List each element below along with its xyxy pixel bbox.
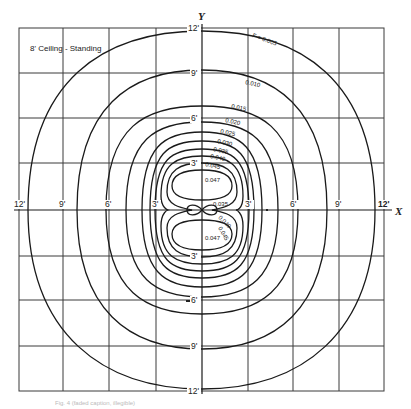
y-tick: 6' — [191, 113, 198, 123]
contour-label: F = 0.005 — [252, 32, 279, 47]
marker — [186, 300, 190, 302]
contour-label: 0.040 — [210, 153, 227, 162]
contour-label: 0.030 — [217, 138, 234, 147]
x-tick: 12' — [14, 199, 25, 209]
y-tick: 3' — [191, 251, 198, 261]
contour-label: 0.035 — [213, 201, 229, 207]
x-tick: 12' — [378, 199, 389, 209]
x-tick: 6' — [105, 199, 112, 209]
x-tick: 9' — [335, 199, 342, 209]
marker — [266, 209, 268, 211]
contour-label: 0.047 — [205, 177, 221, 183]
chart-title: 8' Ceiling - Standing — [30, 44, 101, 53]
x-tick: 9' — [59, 199, 66, 209]
y-tick: 9' — [191, 68, 198, 78]
axes: X Y — [14, 10, 403, 394]
figure-caption: Fig. 4 (faded caption, illegible) — [55, 400, 135, 406]
x-tick: 3' — [245, 199, 252, 209]
y-tick: 9' — [191, 341, 198, 351]
y-axis-label: Y — [198, 10, 206, 22]
contour-label: 0.045 — [205, 161, 222, 170]
y-tick: 6' — [191, 295, 198, 305]
contour-chart: X Y 12' 9' 6' 3' — [0, 0, 411, 409]
x-axis-label: X — [394, 205, 403, 217]
contour-label: 0.047 — [205, 235, 221, 241]
x-tick: 6' — [290, 199, 297, 209]
x-tick: 3' — [152, 199, 159, 209]
y-tick: 12' — [188, 386, 199, 396]
y-tick: 3' — [191, 158, 198, 168]
y-tick: 12' — [188, 23, 199, 33]
contour-label: 0.015 — [231, 103, 248, 112]
